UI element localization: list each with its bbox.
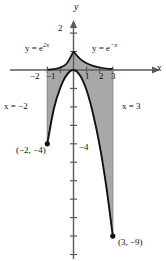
y-tick-label-minus-4: −4	[79, 143, 89, 152]
y-tick-label-2: 2	[58, 24, 63, 33]
curve-label-right-exponent: −x	[110, 41, 117, 48]
axes-group	[10, 20, 160, 259]
vline-label-left: x = −2	[4, 102, 28, 111]
math-figure: y x 2 −4 −2 −1 1 2 3 y = e2x y = e−x x =…	[0, 0, 166, 261]
y-axis-arrow	[70, 20, 77, 28]
x-tick-label-minus-2: −2	[30, 72, 40, 81]
plot-canvas	[0, 0, 166, 261]
curve-label-right-base: y = e	[92, 43, 110, 53]
x-axis-label: x	[157, 63, 161, 73]
vline-label-right: x = 3	[122, 102, 141, 111]
x-tick-label-3: 3	[111, 72, 116, 81]
y-axis-label: y	[74, 2, 78, 12]
point-marker-right	[110, 233, 115, 238]
x-tick-label-2: 2	[99, 72, 104, 81]
point-label-right: (3, −9)	[118, 238, 143, 247]
curve-label-left-exponent: 2x	[43, 41, 49, 48]
point-label-left: (−2, −4)	[16, 146, 46, 155]
x-tick-label-minus-1: −1	[46, 72, 56, 81]
curve-label-right: y = e−x	[92, 44, 117, 53]
curve-label-left: y = e2x	[25, 44, 49, 53]
curve-label-left-base: y = e	[25, 43, 43, 53]
x-tick-label-1: 1	[85, 72, 90, 81]
